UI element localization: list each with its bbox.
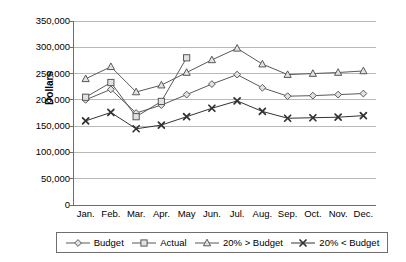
diamond-marker bbox=[309, 92, 316, 99]
data-point-triangle bbox=[82, 75, 89, 82]
data-point-x bbox=[83, 118, 89, 124]
triangle-marker bbox=[360, 67, 367, 74]
data-point-diamond bbox=[360, 90, 367, 97]
data-point-x bbox=[234, 98, 240, 104]
triangle-marker bbox=[183, 69, 190, 76]
legend-item-label: 20% > Budget bbox=[223, 237, 283, 248]
data-point-diamond bbox=[183, 91, 190, 98]
data-point-triangle bbox=[183, 69, 190, 76]
legend-item-label: 20% < Budget bbox=[319, 237, 379, 248]
diamond-marker bbox=[234, 71, 241, 78]
square-marker bbox=[184, 55, 190, 61]
plot-area bbox=[0, 0, 406, 262]
square-marker bbox=[141, 239, 147, 245]
data-point-square bbox=[141, 239, 147, 245]
legend-item[interactable]: 20% > Budget bbox=[194, 237, 283, 249]
triangle-marker bbox=[234, 45, 241, 52]
data-point-square bbox=[184, 55, 190, 61]
series-line bbox=[86, 48, 364, 92]
data-point-x bbox=[184, 114, 190, 120]
data-point-square bbox=[158, 98, 164, 104]
chart-legend: BudgetActual20% > Budget20% < Budget bbox=[56, 232, 388, 253]
data-point-diamond bbox=[74, 239, 81, 246]
data-point-triangle bbox=[107, 63, 114, 70]
triangle-marker bbox=[208, 56, 215, 63]
series-budget bbox=[82, 71, 367, 116]
legend-item[interactable]: Budget bbox=[65, 237, 124, 249]
series-line bbox=[86, 75, 364, 113]
data-point-triangle bbox=[158, 81, 165, 88]
data-point-diamond bbox=[335, 91, 342, 98]
data-point-diamond bbox=[208, 81, 215, 88]
square-marker bbox=[83, 94, 89, 100]
data-point-diamond bbox=[284, 93, 291, 100]
triangle-marker bbox=[107, 63, 114, 70]
diamond-marker bbox=[335, 91, 342, 98]
data-point-triangle bbox=[259, 60, 266, 67]
chart-container: Dollars 350,000300,000250,000200,000150,… bbox=[0, 0, 406, 262]
triangle-marker bbox=[158, 81, 165, 88]
data-point-diamond bbox=[259, 84, 266, 91]
data-point-x bbox=[108, 109, 114, 115]
data-point-triangle bbox=[234, 45, 241, 52]
x-legend-icon bbox=[290, 237, 316, 249]
data-point-square bbox=[133, 114, 139, 120]
square-legend-icon bbox=[131, 237, 157, 249]
data-point-triangle bbox=[360, 67, 367, 74]
triangle-legend-icon bbox=[194, 237, 220, 249]
diamond-marker bbox=[74, 239, 81, 246]
square-marker bbox=[133, 114, 139, 120]
diamond-marker bbox=[208, 81, 215, 88]
triangle-marker bbox=[82, 75, 89, 82]
legend-item-label: Actual bbox=[160, 237, 186, 248]
square-marker bbox=[108, 79, 114, 85]
square-marker bbox=[158, 98, 164, 104]
data-point-square bbox=[108, 79, 114, 85]
legend-item[interactable]: 20% < Budget bbox=[290, 237, 379, 249]
data-point-diamond bbox=[309, 92, 316, 99]
diamond-marker bbox=[183, 91, 190, 98]
diamond-marker bbox=[360, 90, 367, 97]
legend-item-label: Budget bbox=[94, 237, 124, 248]
triangle-marker bbox=[259, 60, 266, 67]
data-point-diamond bbox=[234, 71, 241, 78]
legend-item[interactable]: Actual bbox=[131, 237, 186, 249]
data-point-x bbox=[259, 108, 265, 114]
series-20-budget bbox=[82, 45, 367, 95]
data-point-square bbox=[83, 94, 89, 100]
data-point-x bbox=[209, 105, 215, 111]
diamond-marker bbox=[259, 84, 266, 91]
diamond-marker bbox=[284, 93, 291, 100]
diamond-legend-icon bbox=[65, 237, 91, 249]
data-point-triangle bbox=[208, 56, 215, 63]
